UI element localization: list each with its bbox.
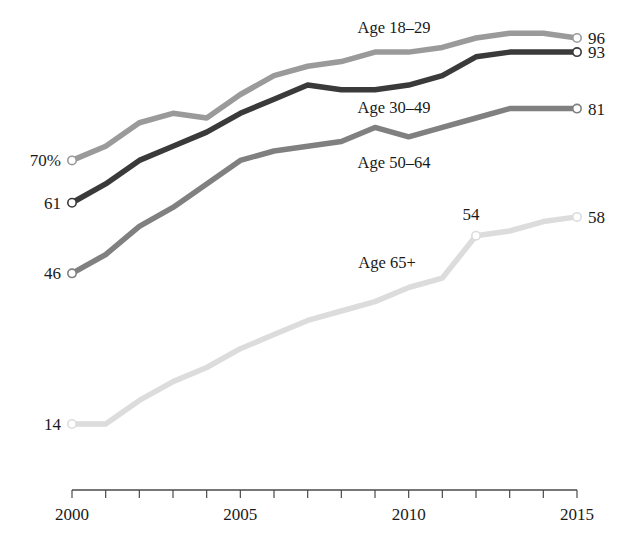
- series-start-marker: [68, 420, 76, 428]
- line-chart: 2000200520102015 70%96Age 18–296193Age 3…: [0, 0, 629, 559]
- series-age-65: [68, 213, 581, 429]
- series-end-value-label: 81: [588, 100, 605, 119]
- series-start-value-label: 70%: [30, 151, 61, 170]
- series-start-value-label: 61: [44, 194, 61, 213]
- series-annotation-label: Age 18–29: [358, 18, 431, 37]
- x-axis-tick-label: 2010: [392, 505, 426, 524]
- series-start-value-label: 46: [44, 264, 61, 283]
- series-annotation-label: Age 30–49: [358, 98, 431, 117]
- x-axis: 2000200520102015: [55, 490, 594, 524]
- series-start-marker: [68, 156, 76, 164]
- series-end-marker: [573, 213, 581, 221]
- chart-canvas: 2000200520102015 70%96Age 18–296193Age 3…: [0, 0, 629, 559]
- x-axis-tick-label: 2000: [55, 505, 89, 524]
- series-line: [72, 109, 577, 274]
- series-end-value-label: 58: [588, 208, 605, 227]
- series-annotation-label: Age 65+: [358, 253, 415, 272]
- series-layer: [68, 33, 581, 428]
- series-end-marker: [573, 48, 581, 56]
- x-axis-tick-label: 2015: [560, 505, 594, 524]
- series-start-value-label: 14: [44, 415, 62, 434]
- series-start-marker: [68, 199, 76, 207]
- series-line: [72, 217, 577, 424]
- series-annotation-label: Age 50–64: [358, 153, 431, 172]
- series-age-30-49: [68, 48, 581, 207]
- x-axis-tick-label: 2005: [223, 505, 257, 524]
- series-age-50-64: [68, 104, 581, 277]
- series-point-value-label: 54: [463, 205, 481, 224]
- series-end-marker: [573, 104, 581, 112]
- series-end-marker: [573, 34, 581, 42]
- series-point-marker: [472, 232, 480, 240]
- series-end-value-label: 93: [588, 43, 605, 62]
- series-start-marker: [68, 269, 76, 277]
- series-line: [72, 52, 577, 203]
